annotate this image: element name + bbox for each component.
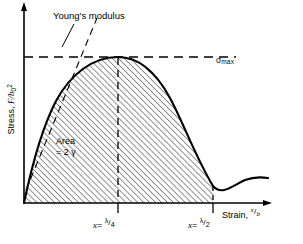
x-tick-label-half: x= λ / 2 (188, 219, 210, 230)
x-axis-label-prefix: Strain, (222, 210, 248, 220)
x-axis-fraction-denominator: b (257, 211, 261, 218)
sigma-subscript: max (221, 58, 234, 65)
x-axis-label-fraction: x / b (251, 209, 261, 218)
hatched-area (20, 50, 220, 206)
y-axis-label-symbol: F/b (6, 91, 16, 104)
tick-quarter-fraction: λ / 4 (105, 219, 115, 228)
x-axis-arrowhead (263, 200, 272, 206)
x-axis-ticks (118, 203, 213, 213)
sigma-max-label: σmax (216, 56, 234, 66)
tick-half-fraction: λ / 2 (200, 219, 210, 228)
area-label-line1: Area (56, 136, 75, 146)
youngs-modulus-leader (62, 24, 74, 47)
area-label: Area = 2 γ (56, 137, 76, 157)
y-axis-label-prefix: Stress, (6, 106, 16, 134)
x-tick-label-quarter: x= λ / 4 (93, 219, 115, 230)
y-axis-label-subscript: 0 (10, 88, 17, 92)
youngs-modulus-label: Young's modulus (53, 11, 125, 21)
stress-strain-figure: Young's modulus σmax Area = 2 γ Stress, … (0, 0, 303, 244)
chart-canvas (0, 0, 303, 244)
tick-quarter-denominator: 4 (111, 221, 115, 228)
y-axis-arrowhead (21, 2, 27, 11)
y-axis-label: Stress, F/b02 (7, 69, 18, 149)
area-label-line2: = 2 γ (56, 148, 76, 157)
tick-quarter-eq: = (97, 220, 102, 230)
tick-half-denominator: 2 (206, 221, 210, 228)
x-axis-label: Strain, x / b (222, 209, 261, 220)
y-axis-label-superscript: 2 (6, 84, 13, 88)
tick-half-eq: = (192, 220, 197, 230)
